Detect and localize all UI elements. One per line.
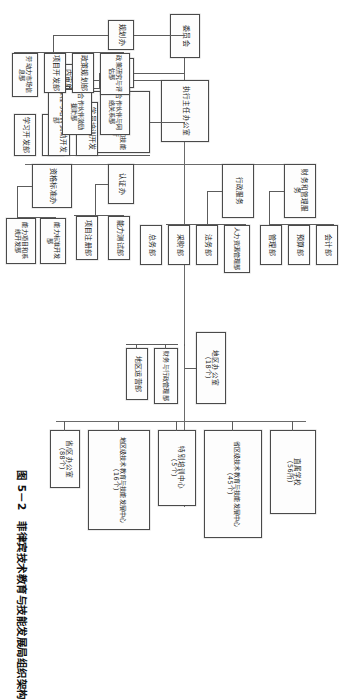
facility-bus — [56, 421, 306, 422]
node-competency-program-systems-dev-dept: 能力项目和系统开发部 — [6, 218, 36, 264]
node-provincial-district-office-count: （88个） — [58, 432, 65, 486]
node-certification-office: 认证办 — [108, 164, 134, 204]
node-partner-network-relations-dept: 合作伙伴与网络关系部 — [100, 89, 130, 135]
link-qual-bus — [18, 186, 32, 187]
node-competency-standards-dev-dept-label: 能力标准开发部 — [46, 220, 60, 262]
node-learning-dev-dept-label: 学习开发部 — [21, 116, 29, 154]
node-provincial-tesd-center-label: 省区级技术教育与技能发展中心 — [233, 432, 240, 536]
link-regional-unit1 — [165, 344, 166, 349]
node-project-development-dept-label: 项目开发部 — [51, 55, 59, 91]
node-regional-operations-dept-label: 地区运营部 — [133, 350, 141, 398]
node-provincial-tesd-center: 省区级技术教育与技能发展中心 （45个） — [204, 430, 262, 538]
node-regional-operations-dept: 地区运营部 — [126, 348, 148, 400]
link-finance-to-children — [269, 191, 270, 225]
link-finance-bus — [270, 191, 284, 192]
node-management-dept-label: 管理部 — [267, 227, 275, 263]
node-administrative-services: 行政服务 — [222, 164, 254, 218]
node-provincial-district-office: 省/区办公室 （88个） — [50, 430, 80, 488]
node-regional-office-count: （18个） — [204, 334, 211, 402]
node-accounting-dept: 会计部 — [316, 225, 338, 265]
link-institute-to-spine — [150, 122, 185, 123]
node-special-training-center-count: （5个） — [170, 432, 177, 504]
link-regional-units-to-office — [184, 344, 185, 346]
node-planning-office-label: 规划办 — [117, 22, 125, 48]
node-procurement-dept: 采购部 — [168, 225, 190, 265]
node-finance-admin-services-label: 财务和管理服务 — [293, 166, 308, 216]
link-regional-units-bus — [126, 344, 178, 345]
link-planning-to-spine — [134, 35, 185, 36]
node-legal-dept: 法务部 — [196, 225, 218, 265]
node-board-label: 委员会 — [181, 16, 189, 56]
link-facility-2 — [176, 421, 177, 431]
link-admin-to-children — [207, 191, 208, 225]
node-regional-tesd-center-label: 地区级技术教育与技能发展中心 — [119, 432, 126, 528]
node-provincial-district-office-label: 省/区办公室 — [65, 432, 72, 486]
node-board: 委员会 — [170, 14, 200, 58]
link-cert-to-children — [95, 184, 96, 216]
node-project-development-dept: 项目开发部 — [44, 53, 66, 93]
node-regional-finance-admin-dept: 财务与行政管理部 — [154, 348, 178, 404]
node-executive-office-label: 执行主任办公室 — [181, 82, 188, 140]
node-special-training-center: 特别培训中心 （5个） — [158, 430, 196, 506]
node-qualification-standards-office: 资格标准办 — [32, 164, 72, 208]
figure-caption: 图 5－2 菲律宾技术教育与技能发展局组织架构 — [15, 470, 30, 700]
node-special-training-center-label: 特别培训中心 — [177, 432, 184, 504]
node-policy-research-evaluation-dept: 政策研究与评估部 — [100, 53, 130, 95]
link-facility-1 — [118, 421, 119, 431]
node-labor-market-info-dept-label: 劳动力市场信息部 — [18, 55, 32, 95]
node-accounting-dept-label: 会计部 — [323, 227, 331, 263]
node-affiliated-schools: 直属学校 （56所） — [270, 430, 316, 514]
node-regional-office-label: 地区办公室 — [211, 334, 218, 402]
node-hr-dept-label: 人力资源管理部 — [234, 227, 241, 271]
node-qualification-standards-office-label: 资格标准办 — [48, 166, 56, 206]
link-liaison-to-spine — [134, 73, 185, 74]
node-general-affairs-dept: 总务部 — [140, 225, 162, 265]
node-regional-finance-admin-dept-label: 财务与行政管理部 — [163, 350, 170, 402]
node-competency-testing-dept-label: 能力测试部 — [115, 218, 123, 258]
node-budget-dept-label: 预算部 — [295, 227, 303, 263]
node-regional-office: 地区办公室 （18个） — [196, 332, 226, 404]
link-planning-children-bar — [53, 35, 54, 53]
node-regional-tesd-center-count: （16个） — [112, 432, 119, 528]
node-finance-admin-services: 财务和管理服务 — [284, 164, 316, 218]
node-executive-office: 执行主任办公室 — [161, 80, 209, 142]
link-facility-3 — [232, 421, 233, 431]
node-management-dept: 管理部 — [260, 225, 282, 265]
link-facility-4 — [292, 421, 293, 431]
node-competency-testing-dept: 能力测试部 — [108, 216, 130, 260]
node-policy-research-evaluation-dept-label: 政策研究与评估部 — [108, 55, 122, 93]
node-administrative-services-label: 行政服务 — [234, 166, 241, 216]
node-partner-incentive-assistance-dept-label: 合作伙伴激励援助部 — [70, 91, 84, 133]
link-qual-to-children — [17, 186, 18, 218]
link-cert-bus — [96, 184, 108, 185]
node-affiliated-schools-label: 直属学校 — [293, 432, 300, 512]
node-partner-network-relations-dept-label: 合作伙伴与网络关系部 — [108, 91, 122, 133]
node-program-registration-dept-label: 项目注册部 — [83, 218, 91, 258]
node-policy-planning-dept: 政策规划部 — [72, 53, 94, 93]
node-provincial-tesd-center-count: （45个） — [226, 432, 233, 536]
node-hr-dept: 人力资源管理部 — [224, 225, 250, 273]
node-competency-standards-dev-dept: 能力标准开发部 — [40, 218, 66, 264]
link-facility-0 — [64, 421, 65, 431]
link-board-exec — [184, 58, 185, 80]
node-labor-market-info-dept: 劳动力市场信息部 — [12, 53, 38, 97]
link-admin-bus — [208, 191, 222, 192]
node-affiliated-schools-count: （56所） — [286, 432, 293, 512]
link-planning-bus — [54, 35, 108, 36]
node-partner-incentive-assistance-dept: 合作伙伴激励援助部 — [62, 89, 92, 135]
node-legal-dept-label: 法务部 — [203, 227, 211, 263]
node-procurement-dept-label: 采购部 — [175, 227, 183, 263]
node-program-registration-dept: 项目注册部 — [76, 216, 98, 260]
node-regional-tesd-center: 地区级技术教育与技能发展中心 （16个） — [88, 430, 150, 530]
node-certification-office-label: 认证办 — [117, 166, 125, 202]
link-regional-to-spine — [185, 368, 196, 369]
node-general-affairs-dept-label: 总务部 — [147, 227, 155, 263]
node-planning-office: 规划办 — [108, 20, 134, 50]
node-policy-planning-dept-label: 政策规划部 — [79, 55, 87, 91]
node-learning-dev-dept: 学习开发部 — [14, 114, 36, 156]
node-budget-dept: 预算部 — [288, 225, 310, 265]
link-regional-unit2 — [136, 344, 137, 349]
node-competency-program-systems-dev-dept-label: 能力项目和系统开发部 — [14, 220, 28, 262]
